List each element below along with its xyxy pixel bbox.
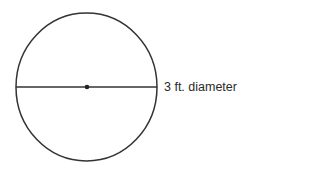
center-point (85, 85, 90, 90)
diameter-label: 3 ft. diameter (164, 79, 237, 95)
